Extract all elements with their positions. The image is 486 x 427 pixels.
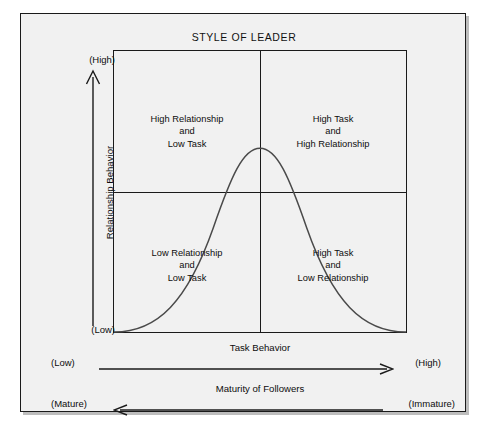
diagram-frame: STYLE OF LEADER (High) (Low) Relationshi… <box>20 13 466 412</box>
quadrant-line-2: and <box>114 259 260 271</box>
x-axis-arrow-icon <box>99 363 394 375</box>
diagram-title: STYLE OF LEADER <box>21 31 467 43</box>
quadrant-low-relationship-low-task: Low Relationship and Low Task <box>114 247 260 284</box>
x-axis-low-label: (Low) <box>51 357 75 368</box>
quadrant-line-1: High Relationship <box>114 113 260 125</box>
quadrant-high-task-low-relationship: High Task and Low Relationship <box>260 247 406 284</box>
quadrant-line-2: and <box>260 125 406 137</box>
maturity-axis-scale: (Mature) (Immature) <box>51 398 455 412</box>
maturity-axis-arrow-icon <box>113 404 383 416</box>
leadership-grid: High Relationship and Low Task High Task… <box>113 50 407 333</box>
quadrant-line-2: and <box>114 125 260 137</box>
quadrant-line-1: High Task <box>260 247 406 259</box>
quadrant-high-task-high-relationship: High Task and High Relationship <box>260 113 406 150</box>
quadrant-line-1: Low Relationship <box>114 247 260 259</box>
maturity-immature-label: (Immature) <box>409 398 455 409</box>
quadrant-line-1: High Task <box>260 113 406 125</box>
quadrant-high-relationship-low-task: High Relationship and Low Task <box>114 113 260 150</box>
maturity-axis-title: Maturity of Followers <box>113 383 407 394</box>
quadrant-line-3: Low Task <box>114 138 260 150</box>
x-axis-scale: (Low) (High) <box>51 357 441 371</box>
situational-leadership-diagram: STYLE OF LEADER (High) (Low) Relationshi… <box>0 0 486 427</box>
bell-curve <box>114 51 406 332</box>
x-axis-title: Task Behavior <box>113 342 407 353</box>
quadrant-line-3: High Relationship <box>260 138 406 150</box>
quadrant-line-3: Low Relationship <box>260 272 406 284</box>
quadrant-line-3: Low Task <box>114 272 260 284</box>
quadrant-line-2: and <box>260 259 406 271</box>
maturity-mature-label: (Mature) <box>51 398 87 409</box>
y-axis-high-label: (High) <box>59 54 115 65</box>
x-axis-high-label: (High) <box>415 357 441 368</box>
y-axis-arrow-icon: Relationship Behavior <box>83 67 103 326</box>
